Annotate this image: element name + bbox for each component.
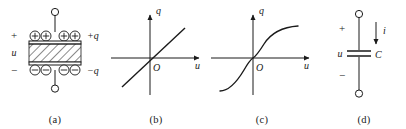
- capacitor-figure: + u − +q −q (a) q: [0, 0, 406, 129]
- panel-b-drawing: q u O: [106, 0, 206, 112]
- panel-a-drawing: + u − +q −q: [0, 0, 110, 112]
- panel-a-sublabel: (a): [0, 114, 110, 125]
- panel-c-drawing: q u O: [206, 0, 318, 112]
- polarity-minus-label: −: [339, 69, 345, 81]
- panel-c-nonlinear-characteristic: q u O (c): [206, 0, 318, 129]
- panel-a-capacitor-model: + u − +q −q (a): [0, 0, 110, 129]
- voltage-label: u: [12, 47, 17, 58]
- bottom-terminal-node: [51, 85, 58, 92]
- polarity-plus-label: +: [339, 22, 345, 34]
- panel-d-drawing: + u − C i: [322, 0, 406, 112]
- top-terminal-node: [355, 10, 362, 17]
- bottom-terminal-node: [355, 90, 362, 97]
- panel-b-linear-characteristic: q u O (b): [106, 0, 206, 129]
- x-axis-label: u: [304, 60, 309, 71]
- x-axis-label: u: [195, 60, 200, 71]
- y-axis-label: q: [156, 5, 161, 16]
- charge-positive-label: +q: [87, 30, 99, 41]
- polarity-minus-label: −: [11, 64, 17, 76]
- panel-d-sublabel: (d): [322, 114, 406, 125]
- panel-c-sublabel: (c): [206, 114, 318, 125]
- voltage-label: u: [338, 48, 343, 59]
- top-terminal-node: [51, 8, 58, 15]
- charge-negative-label: −q: [87, 65, 99, 76]
- current-label: i: [383, 25, 386, 36]
- top-plate: [29, 41, 81, 44]
- top-plate-charge-group: [30, 31, 80, 41]
- origin-label: O: [256, 62, 263, 73]
- panel-d-circuit-symbol: + u − C i (d): [322, 0, 406, 129]
- origin-label: O: [153, 62, 160, 73]
- bottom-plate: [29, 62, 81, 65]
- dielectric-region: [29, 44, 81, 62]
- panel-b-sublabel: (b): [106, 114, 206, 125]
- polarity-plus-label: +: [11, 29, 17, 41]
- capacitance-label: C: [375, 49, 382, 60]
- y-axis-label: q: [259, 5, 264, 16]
